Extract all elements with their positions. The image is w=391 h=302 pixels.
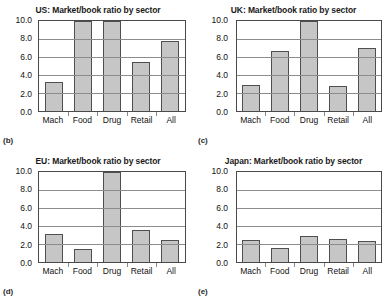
y-tick-label: 2.0 [20,89,32,98]
x-tick-label: Food [68,115,98,125]
bar-retail [329,239,347,262]
y-tick-label: 4.0 [20,222,32,231]
bar-mach [45,234,63,262]
y-tick-label: 6.0 [216,204,228,213]
bar-series-japan [237,172,381,262]
x-tick-label: Retail [127,266,157,276]
x-tick-label: Retail [324,115,353,125]
chart-title-uk: UK: Market/book ratio by sector [196,5,391,15]
gridline [237,75,381,76]
bar-retail [132,62,150,112]
y-tick-label: 2.0 [216,89,228,98]
x-axis-labels-japan: MachFoodDrugRetailAll [236,266,382,276]
bar-retail [329,86,347,111]
y-axis-labels-us: 0.02.04.06.08.010.0 [0,20,35,112]
bar-slot [68,172,97,262]
bar-series-us [39,21,185,111]
y-tick-label: 4.0 [20,71,32,80]
x-tick-label: Drug [294,115,323,125]
gridline [39,57,185,58]
bar-drug [300,21,318,111]
chart-panel-uk: UK: Market/book ratio by sector 0.02.04.… [196,0,391,151]
y-axis-labels-japan: 0.02.04.06.08.010.0 [196,171,231,263]
chart-title-eu: EU: Market/book ratio by sector [0,156,196,166]
bar-series-eu [39,172,185,262]
bar-slot [127,172,156,262]
bar-slot [39,21,68,111]
y-tick-label: 10.0 [211,167,228,176]
gridline [237,93,381,94]
plot-area-us [38,20,186,112]
bar-drug [300,236,318,262]
gridline [237,190,381,191]
x-tick-label: All [353,115,382,125]
bar-slot [127,21,156,111]
bar-mach [242,85,260,111]
bar-food [271,51,289,111]
bar-retail [132,230,150,262]
y-tick-label: 4.0 [216,222,228,231]
plot-area-uk [236,20,382,112]
y-tick-label: 6.0 [216,53,228,62]
y-axis-labels-uk: 0.02.04.06.08.010.0 [196,20,231,112]
x-tick-label: All [156,115,186,125]
bar-slot [156,172,185,262]
gridline [39,226,185,227]
bar-mach [45,82,63,111]
x-axis-labels-eu: MachFoodDrugRetailAll [38,266,186,276]
x-tick-label: Retail [324,266,353,276]
figure-panel-grid: US: Market/book ratio by sector 0.02.04.… [0,0,391,302]
gridline [237,39,381,40]
bar-slot [237,21,266,111]
plot-wrap-uk [236,20,382,112]
x-tick-label: Retail [127,115,157,125]
bar-slot [156,21,185,111]
bar-food [74,249,92,262]
gridline [39,190,185,191]
bar-series-uk [237,21,381,111]
x-tick-label: Food [265,266,294,276]
y-axis-labels-eu: 0.02.04.06.08.010.0 [0,171,35,263]
y-tick-label: 0.0 [216,108,228,117]
x-axis-labels-us: MachFoodDrugRetailAll [38,115,186,125]
y-tick-label: 8.0 [216,185,228,194]
bar-slot [266,21,295,111]
plot-wrap-us [38,20,186,112]
panel-letter-d: (d) [3,287,13,296]
x-tick-label: Drug [97,115,127,125]
gridline [39,208,185,209]
bar-slot [266,172,295,262]
gridline [237,226,381,227]
y-tick-label: 4.0 [216,71,228,80]
bar-slot [352,21,381,111]
chart-panel-japan: Japan: Market/book ratio by sector 0.02.… [196,151,391,302]
bar-slot [295,21,324,111]
bar-slot [323,172,352,262]
y-tick-label: 0.0 [20,259,32,268]
bar-food [74,21,92,111]
x-tick-label: Mach [38,266,68,276]
x-tick-label: Food [265,115,294,125]
x-tick-label: Mach [236,115,265,125]
bar-slot [39,172,68,262]
y-tick-label: 0.0 [20,108,32,117]
gridline [39,39,185,40]
bar-food [271,248,289,262]
gridline [39,93,185,94]
bar-slot [237,172,266,262]
y-tick-label: 10.0 [15,167,32,176]
gridline [237,208,381,209]
panel-letter-b: (b) [3,136,13,145]
panel-letter-c: (c) [198,136,208,145]
gridline [237,57,381,58]
y-tick-label: 6.0 [20,204,32,213]
chart-title-japan: Japan: Market/book ratio by sector [196,156,391,166]
chart-title-us: US: Market/book ratio by sector [0,5,196,15]
y-tick-label: 8.0 [20,185,32,194]
gridline [39,75,185,76]
y-tick-label: 6.0 [20,53,32,62]
plot-wrap-eu [38,171,186,263]
x-tick-label: Mach [236,266,265,276]
x-tick-label: All [353,266,382,276]
bar-slot [323,21,352,111]
